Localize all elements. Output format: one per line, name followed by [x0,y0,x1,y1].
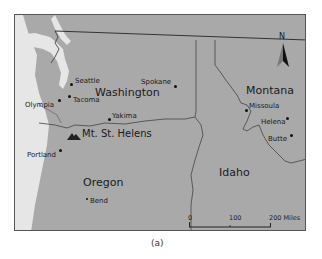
scale-bar-lines [189,222,273,231]
map: N Washington Oregon Idaho Montana Mt. St… [14,14,306,231]
city-dot-helena [286,117,289,120]
city-dot-spokane [174,85,177,88]
scale-miles-100: 100 [229,215,241,222]
city-label-bend: Bend [90,198,108,205]
state-label-washington: Washington [95,87,160,98]
figure-caption: (a) [151,238,164,248]
city-label-yakima: Yakima [112,113,137,120]
city-dot-seattle [70,83,73,86]
city-dot-tacoma [68,95,71,98]
state-label-montana: Montana [246,85,294,96]
city-dot-butte [290,134,293,137]
scale-miles-0: 0 [188,215,192,222]
city-label-portland: Portland [27,152,56,159]
city-label-olympia: Olympia [25,102,54,109]
city-label-missoula: Missoula [249,103,279,110]
scale-miles-200: 200 Miles [269,215,300,222]
north-arrow-icon [275,43,291,69]
city-dot-yakima [108,118,111,121]
city-label-tacoma: Tacoma [73,97,100,104]
mountain-icon [67,132,81,140]
city-dot-missoula [245,109,248,112]
state-label-idaho: Idaho [219,167,250,178]
city-label-spokane: Spokane [141,79,171,86]
city-dot-olympia [58,99,61,102]
city-label-butte: Butte [268,136,287,143]
city-dot-portland [59,149,62,152]
north-label: N [279,33,285,41]
city-label-seattle: Seattle [75,78,100,85]
city-dot-bend [86,198,88,200]
state-label-oregon: Oregon [83,177,123,188]
city-label-helena: Helena [261,119,286,126]
landmark-label-mt-st-helens: Mt. St. Helens [82,129,152,139]
